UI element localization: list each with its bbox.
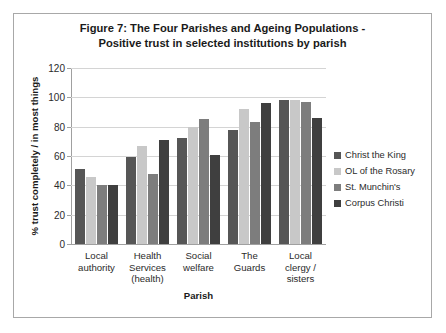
x-axis-tick-label-line: Local: [71, 250, 122, 262]
y-axis-tick-label: 80: [54, 121, 65, 132]
bar: [177, 138, 187, 244]
legend-swatch-icon: [334, 200, 341, 207]
bar: [250, 122, 260, 244]
x-axis-tick-label-line: sisters: [275, 273, 326, 285]
x-axis-tick-label: TheGuards: [224, 250, 275, 273]
bar: [312, 118, 322, 244]
y-axis-tick-label: 0: [59, 239, 65, 250]
chart-title-line-1: Figure 7: The Four Parishes and Ageing P…: [14, 21, 431, 36]
legend-item[interactable]: Christ the King: [334, 147, 430, 163]
legend-swatch-icon: [334, 168, 341, 175]
y-axis-tick-mark: [67, 244, 71, 245]
bar: [86, 177, 96, 244]
legend-swatch-icon: [334, 184, 341, 191]
bar: [159, 140, 169, 244]
bar: [199, 119, 209, 244]
x-axis-tick-label-line: Local: [275, 250, 326, 262]
x-axis-tick-label: Localclergy /sisters: [275, 250, 326, 285]
bar: [210, 155, 220, 244]
legend-item-label: St. Munchin's: [345, 182, 401, 192]
x-axis-tick-label-line: welfare: [173, 262, 224, 274]
x-axis-tick-label-line: Social: [173, 250, 224, 262]
bar: [228, 130, 238, 244]
gridline: [71, 244, 326, 245]
x-axis-title: Parish: [71, 290, 326, 301]
x-axis-tick-label-line: The: [224, 250, 275, 262]
y-axis-tick-label: 60: [54, 151, 65, 162]
x-axis-tick-label-line: authority: [71, 262, 122, 274]
chart-title-line-2: Positive trust in selected institutions …: [14, 36, 431, 51]
bar: [279, 100, 289, 244]
legend-item-label: Corpus Christi: [345, 198, 404, 208]
x-axis-tick-label: HealthServices(health): [122, 250, 173, 285]
figure-container: Figure 7: The Four Parishes and Ageing P…: [13, 13, 432, 318]
chart-title: Figure 7: The Four Parishes and Ageing P…: [14, 21, 431, 51]
x-axis-tick-label-line: Services: [122, 262, 173, 274]
legend-item-label: OL of the Rosary: [345, 166, 415, 176]
y-axis-tick-label: 20: [54, 209, 65, 220]
bar: [137, 146, 147, 244]
bar-group: [71, 68, 122, 244]
x-axis-tick-label: Socialwelfare: [173, 250, 224, 273]
x-axis-tick-label-line: (health): [122, 273, 173, 285]
bar: [188, 127, 198, 244]
y-axis-title: % trust completely / in most things: [28, 68, 42, 244]
x-axis-tick-label-line: Health: [122, 250, 173, 262]
legend-item-label: Christ the King: [345, 150, 406, 160]
bar: [75, 169, 85, 244]
x-axis-tick-label: Localauthority: [71, 250, 122, 273]
y-axis-tick-label: 120: [48, 63, 65, 74]
y-axis-tick-label: 40: [54, 180, 65, 191]
legend-item[interactable]: Corpus Christi: [334, 195, 430, 211]
x-axis-tick-label-line: clergy /: [275, 262, 326, 274]
x-axis-tick-label-line: Guards: [224, 262, 275, 274]
bar: [261, 103, 271, 244]
bar: [301, 102, 311, 244]
bar: [108, 185, 118, 244]
bar-group: [275, 68, 326, 244]
bar: [239, 109, 249, 244]
plot-area: 020406080100120 LocalauthorityHealthServ…: [71, 68, 326, 244]
y-axis-tick-label: 100: [48, 92, 65, 103]
legend-item[interactable]: St. Munchin's: [334, 179, 430, 195]
chart-legend: Christ the KingOL of the RosarySt. Munch…: [334, 147, 430, 211]
bar: [97, 185, 107, 244]
bar: [148, 174, 158, 244]
bar: [126, 157, 136, 244]
bar: [290, 100, 300, 244]
legend-item[interactable]: OL of the Rosary: [334, 163, 430, 179]
bar-group: [224, 68, 275, 244]
legend-swatch-icon: [334, 152, 341, 159]
bar-group: [122, 68, 173, 244]
bar-group: [173, 68, 224, 244]
